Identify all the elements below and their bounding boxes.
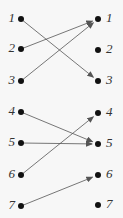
right-node-4 <box>95 110 101 116</box>
left-node-4 <box>18 109 24 115</box>
left-label-7: 7 <box>1 198 15 211</box>
arrow-edge-6-to-4 <box>21 117 93 175</box>
left-label-4: 4 <box>1 104 15 117</box>
arrow-edge-4-to-5 <box>21 112 92 142</box>
right-label-2: 2 <box>106 42 113 55</box>
arrow-edge-5-to-5 <box>21 143 92 144</box>
mapping-diagram: 12345671234567 <box>0 0 123 218</box>
mapping-graph <box>0 0 123 218</box>
edge-group <box>21 19 93 206</box>
left-node-2 <box>18 46 24 52</box>
right-node-7 <box>95 202 101 208</box>
left-label-2: 2 <box>1 41 15 54</box>
left-node-6 <box>18 172 24 178</box>
arrow-edge-1-to-3 <box>21 19 93 77</box>
arrow-edge-3-to-1 <box>21 23 93 81</box>
arrow-edge-2-to-1 <box>21 21 92 49</box>
right-label-1: 1 <box>106 11 113 24</box>
left-label-1: 1 <box>1 11 15 24</box>
left-label-5: 5 <box>1 135 15 148</box>
arrow-edge-7-to-6 <box>21 177 92 206</box>
left-node-3 <box>18 78 24 84</box>
right-label-7: 7 <box>106 197 113 210</box>
left-label-6: 6 <box>1 167 15 180</box>
right-node-5 <box>95 141 101 147</box>
right-label-3: 3 <box>106 73 113 86</box>
left-node-1 <box>18 16 24 22</box>
left-node-5 <box>18 140 24 146</box>
right-node-2 <box>95 47 101 53</box>
left-label-3: 3 <box>1 73 15 86</box>
right-label-4: 4 <box>106 105 113 118</box>
right-label-6: 6 <box>106 167 113 180</box>
right-label-5: 5 <box>106 136 113 149</box>
right-node-3 <box>95 78 101 84</box>
left-node-7 <box>18 203 24 209</box>
right-node-1 <box>95 16 101 22</box>
right-node-6 <box>95 172 101 178</box>
